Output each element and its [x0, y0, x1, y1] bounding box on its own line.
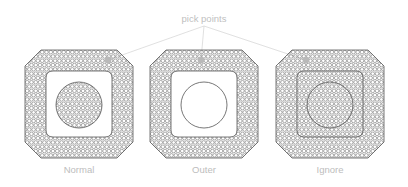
mesh-fill-normal — [21, 46, 143, 166]
mesh-shapes-layer — [21, 46, 394, 166]
pick-points-callout-label: pick points — [182, 13, 227, 24]
pick-points-diagram: pick points NormalOuterIgnore — [0, 0, 408, 187]
case-label-ignore: Ignore — [317, 164, 344, 175]
case-label-outer: Outer — [192, 164, 216, 175]
body-outline-outer — [150, 50, 258, 158]
shape-normal — [21, 46, 143, 166]
case-labels-layer: NormalOuterIgnore — [64, 164, 344, 175]
inner-circle-outline-outer — [181, 82, 227, 128]
case-label-normal: Normal — [64, 164, 95, 175]
diagram-root: pick points NormalOuterIgnore — [0, 0, 408, 187]
pick-point-marker-ignore[interactable] — [303, 57, 310, 64]
mesh-fill-outer — [146, 46, 268, 166]
shape-ignore — [272, 46, 394, 166]
shape-outer — [146, 46, 268, 166]
mesh-fill-ignore — [272, 46, 394, 166]
pick-point-marker-normal[interactable] — [105, 57, 112, 64]
pick-point-marker-outer[interactable] — [198, 57, 205, 64]
leader-line-ignore — [204, 26, 306, 60]
